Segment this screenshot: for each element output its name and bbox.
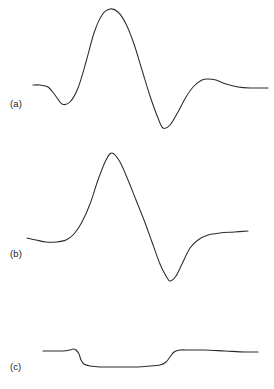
waveform-trace-a xyxy=(33,9,268,129)
panel-label-a: (a) xyxy=(10,98,22,109)
panel-label-c: (c) xyxy=(10,361,21,372)
panel-label-b: (b) xyxy=(10,248,22,259)
waveform-trace-b xyxy=(27,153,248,281)
figure-root: (a) (b) (c) xyxy=(0,0,274,389)
waveform-trace-c xyxy=(43,349,258,367)
waveform-trace-layer xyxy=(0,0,274,389)
